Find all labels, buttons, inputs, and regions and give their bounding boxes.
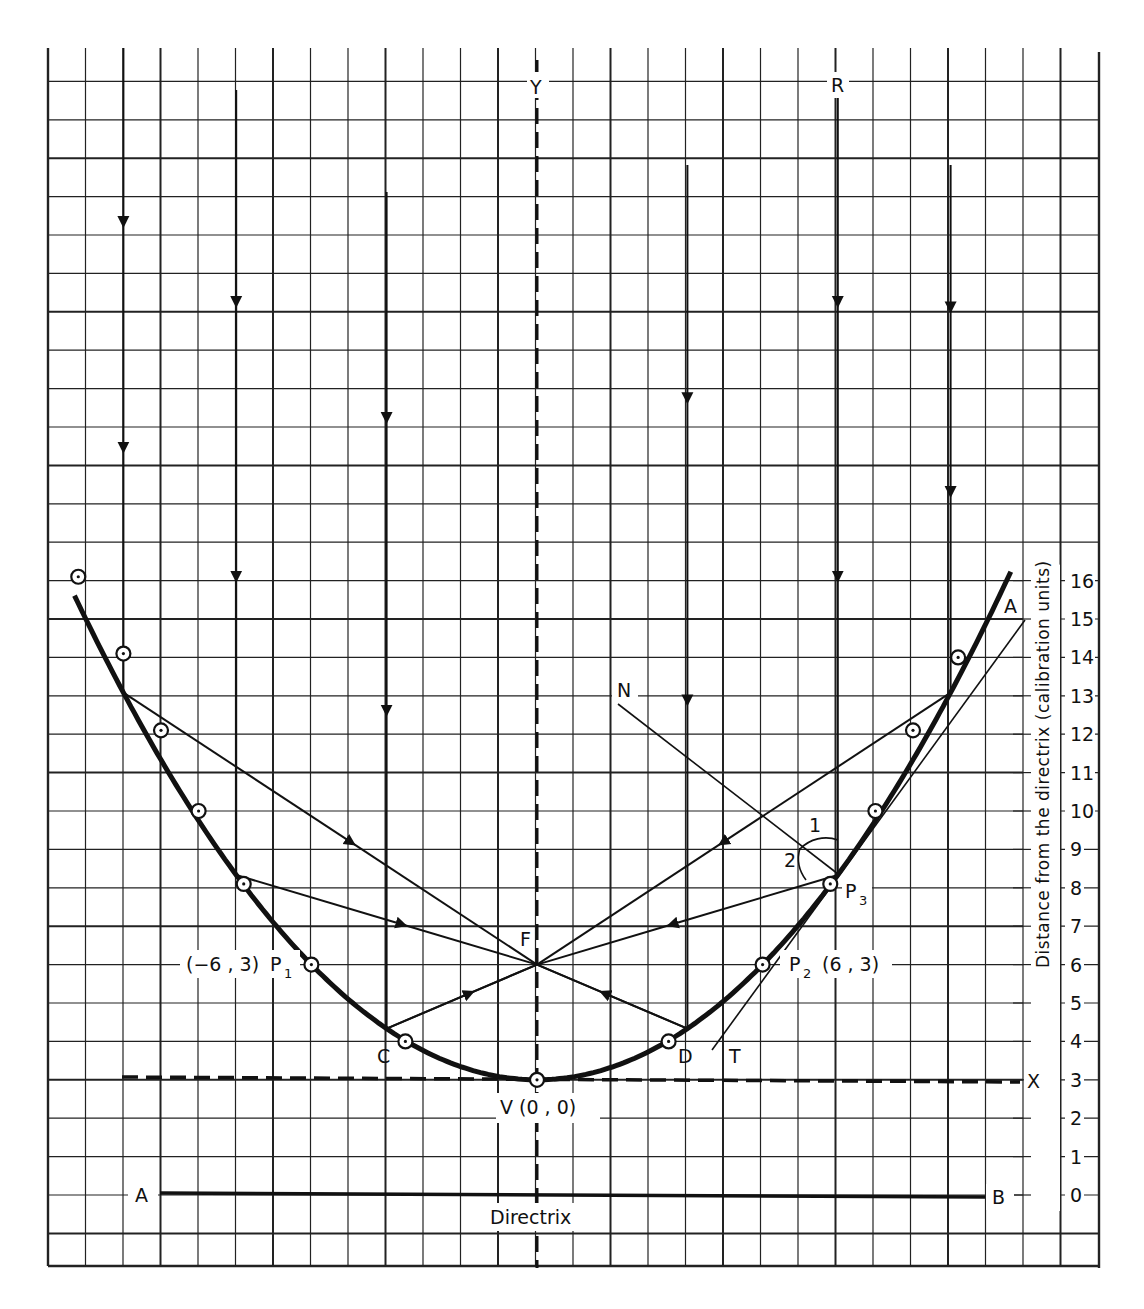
directrix-line bbox=[160, 1193, 985, 1197]
label-p3-sub: 3 bbox=[859, 893, 867, 908]
label-y: Y bbox=[529, 76, 542, 98]
label-n: N bbox=[617, 679, 631, 701]
label-p1-coord: (−6 , 3) bbox=[186, 953, 259, 975]
label-directrix-a: A bbox=[135, 1184, 148, 1206]
label-p1-sub: 1 bbox=[284, 966, 292, 981]
calibration-grid bbox=[48, 48, 1099, 1268]
label-p3: P bbox=[845, 880, 856, 902]
normal-tangent-lines bbox=[618, 620, 1025, 1050]
labels: Y R N A T F C D 1 2 (−6 , 3) P 1 P 2 (6 … bbox=[128, 72, 1046, 1231]
y-tick-label: 11 bbox=[1070, 762, 1094, 784]
y-scale: 012345678910111213141516Distance from th… bbox=[1013, 560, 1095, 1211]
y-tick-label: 16 bbox=[1070, 570, 1094, 592]
label-vertex: V (0 , 0) bbox=[500, 1096, 576, 1118]
y-tick-label: 15 bbox=[1070, 608, 1094, 630]
label-p2-coord: (6 , 3) bbox=[822, 953, 879, 975]
label-c: C bbox=[377, 1045, 390, 1067]
y-tick-label: 3 bbox=[1070, 1069, 1082, 1091]
parabola-curve bbox=[75, 572, 1011, 1080]
label-x: X bbox=[1027, 1070, 1040, 1092]
y-tick-label: 10 bbox=[1070, 800, 1094, 822]
y-axis-title: Distance from the directrix (calibration… bbox=[1033, 560, 1053, 968]
y-tick-label: 13 bbox=[1070, 685, 1094, 707]
parabola-reflector-diagram: 012345678910111213141516Distance from th… bbox=[0, 0, 1144, 1309]
y-tick-label: 4 bbox=[1070, 1030, 1082, 1052]
label-p2: P bbox=[789, 953, 800, 975]
y-tick-label: 1 bbox=[1070, 1146, 1082, 1168]
y-tick-label: 8 bbox=[1070, 877, 1082, 899]
label-directrix: Directrix bbox=[490, 1206, 571, 1228]
y-tick-label: 9 bbox=[1070, 838, 1082, 860]
y-tick-label: 5 bbox=[1070, 992, 1082, 1014]
label-t: T bbox=[728, 1045, 741, 1067]
label-angle-2: 2 bbox=[784, 849, 796, 871]
y-tick-label: 12 bbox=[1070, 723, 1094, 745]
label-d: D bbox=[678, 1045, 693, 1067]
label-r: R bbox=[831, 74, 844, 96]
y-tick-label: 7 bbox=[1070, 915, 1082, 937]
label-p2-sub: 2 bbox=[803, 966, 811, 981]
y-tick-label: 14 bbox=[1070, 646, 1094, 668]
label-f: F bbox=[520, 928, 531, 950]
label-p1: P bbox=[270, 953, 281, 975]
y-tick-label: 2 bbox=[1070, 1107, 1082, 1129]
label-angle-1: 1 bbox=[809, 814, 821, 836]
y-tick-label: 0 bbox=[1070, 1184, 1082, 1206]
y-tick-label: 6 bbox=[1070, 954, 1082, 976]
label-directrix-b: B bbox=[992, 1186, 1005, 1208]
label-a-tangent: A bbox=[1004, 595, 1017, 617]
